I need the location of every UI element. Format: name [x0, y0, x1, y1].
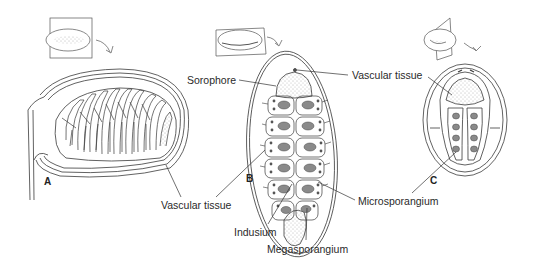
panel-c-section — [423, 64, 507, 176]
panel-a-thumbnail-icon — [46, 18, 113, 58]
panel-letter-b: B — [246, 173, 253, 184]
label-indusium: Indusium — [234, 226, 277, 238]
panel-a-section — [28, 69, 189, 200]
panel-b-thumbnail-icon — [216, 28, 282, 56]
panel-c-thumbnail-icon — [424, 18, 481, 60]
panel-letter-c: C — [430, 175, 437, 186]
sporocarp-diagram: A B C Sorophore Vascular tissue Vascular… — [0, 0, 552, 268]
label-vascular-tissue-top: Vascular tissue — [352, 69, 422, 81]
label-megasporangium: Megasporangium — [267, 243, 348, 255]
panel-letter-a: A — [44, 176, 51, 187]
label-microsporangium: Microsporangium — [358, 195, 439, 207]
label-vascular-tissue-bottom: Vascular tissue — [161, 199, 231, 211]
label-sorophore: Sorophore — [187, 74, 236, 86]
